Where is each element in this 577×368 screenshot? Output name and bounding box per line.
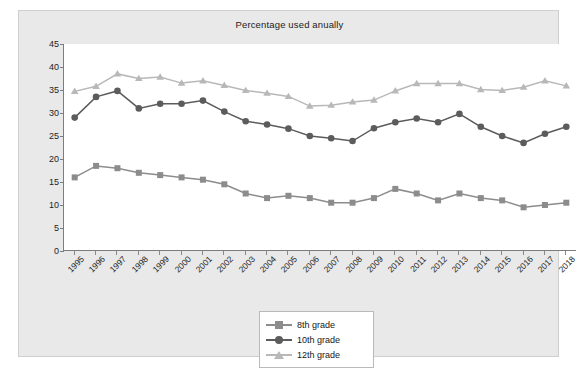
data-point-marker (221, 181, 227, 187)
x-axis-tick-label: 2000 (172, 254, 192, 274)
data-point-marker (92, 83, 100, 89)
data-point-marker (328, 200, 334, 206)
x-axis-labels: 1995199619971998199920002001200220032004… (63, 252, 576, 298)
chart-legend: 8th grade10th grade12th grade (259, 311, 374, 368)
y-axis-tick-mark (60, 113, 64, 114)
data-point-marker (114, 70, 122, 76)
data-point-marker (392, 119, 399, 126)
data-point-marker (307, 133, 314, 140)
data-point-marker (350, 200, 356, 206)
data-point-marker (200, 177, 206, 183)
y-axis-tick-mark (60, 90, 64, 91)
y-axis-tick-label: 20 (37, 154, 59, 164)
x-axis-tick-mark (501, 251, 502, 255)
legend-item[interactable]: 10th grade (266, 332, 365, 347)
x-axis-tick-mark (480, 251, 481, 255)
data-point-marker (221, 108, 228, 115)
data-point-marker (136, 170, 142, 176)
data-point-marker (371, 125, 378, 132)
x-axis-tick-mark (74, 251, 75, 255)
data-point-marker (285, 193, 291, 199)
legend-item[interactable]: 8th grade (266, 317, 365, 332)
plot-area (63, 44, 576, 251)
x-axis-tick-label: 2016 (514, 254, 534, 274)
x-axis-tick-mark (159, 251, 160, 255)
x-axis-tick-label: 2009 (365, 254, 385, 274)
x-axis-tick-mark (373, 251, 374, 255)
x-axis-tick-label: 2004 (258, 254, 278, 274)
y-axis-labels: 051015202530354045 (35, 44, 59, 251)
x-axis-tick-mark (266, 251, 267, 255)
data-point-marker (563, 200, 569, 206)
y-axis-tick-mark (60, 159, 64, 160)
y-axis-tick-mark (60, 228, 64, 229)
x-axis-tick-mark (309, 251, 310, 255)
data-point-marker (435, 197, 441, 203)
x-axis-tick-label: 2001 (194, 254, 214, 274)
x-axis-tick-label: 2015 (493, 254, 513, 274)
x-axis-tick-mark (138, 251, 139, 255)
data-point-marker (178, 101, 185, 108)
data-point-marker (285, 125, 292, 132)
x-axis-tick-mark (245, 251, 246, 255)
x-axis-tick-mark (330, 251, 331, 255)
legend-marker-triangle-icon (266, 349, 292, 361)
data-point-marker (93, 163, 99, 169)
data-point-marker (542, 130, 549, 137)
x-axis-tick-mark (352, 251, 353, 255)
series-line (75, 166, 567, 207)
data-point-marker (71, 114, 78, 121)
chart-panel: Percentage used anually 0510152025303540… (18, 10, 559, 357)
x-axis-tick-label: 2008 (343, 254, 363, 274)
x-axis-tick-label: 2013 (450, 254, 470, 274)
x-axis-tick-mark (437, 251, 438, 255)
x-axis-tick-label: 2003 (236, 254, 256, 274)
x-axis-tick-label: 1996 (87, 254, 107, 274)
data-point-marker (242, 118, 249, 125)
x-axis-tick-label: 2010 (386, 254, 406, 274)
y-axis-tick-label: 0 (37, 246, 59, 256)
y-axis-tick-mark (60, 44, 64, 45)
data-point-marker (179, 174, 185, 180)
data-point-marker (499, 133, 506, 140)
data-point-marker (563, 124, 570, 131)
plot-series-svg (64, 44, 577, 251)
data-point-marker (157, 101, 164, 108)
x-axis-tick-label: 1998 (129, 254, 149, 274)
x-axis-tick-label: 2012 (429, 254, 449, 274)
x-axis-tick-mark (223, 251, 224, 255)
data-point-marker (264, 195, 270, 201)
data-point-marker (136, 105, 143, 112)
y-axis-tick-label: 30 (37, 108, 59, 118)
x-axis-tick-label: 1997 (108, 254, 128, 274)
x-axis-tick-mark (95, 251, 96, 255)
data-point-marker (371, 195, 377, 201)
y-axis-tick-mark (60, 251, 64, 252)
x-axis-tick-label: 2011 (408, 254, 428, 274)
data-point-marker (243, 191, 249, 197)
legend-marker-square-icon (266, 319, 292, 331)
x-axis-tick-mark (416, 251, 417, 255)
data-point-marker (435, 119, 442, 126)
y-axis-tick-label: 40 (37, 62, 59, 72)
y-axis-tick-label: 45 (37, 39, 59, 49)
x-axis-tick-label: 1995 (65, 254, 85, 274)
x-axis-tick-mark (202, 251, 203, 255)
x-axis-tick-mark (523, 251, 524, 255)
x-axis-tick-label: 2006 (300, 254, 320, 274)
y-axis-tick-label: 35 (37, 85, 59, 95)
y-axis-tick-mark (60, 182, 64, 183)
data-point-marker (199, 77, 207, 83)
data-point-marker (414, 191, 420, 197)
series-line (75, 74, 567, 106)
legend-item[interactable]: 12th grade (266, 347, 365, 362)
data-point-marker (93, 94, 100, 101)
data-point-marker (499, 197, 505, 203)
data-point-marker (542, 202, 548, 208)
legend-label: 12th grade (297, 350, 340, 360)
data-point-marker (413, 115, 420, 122)
x-axis-tick-label: 2005 (279, 254, 299, 274)
x-axis-tick-label: 2007 (322, 254, 342, 274)
data-point-marker (478, 195, 484, 201)
